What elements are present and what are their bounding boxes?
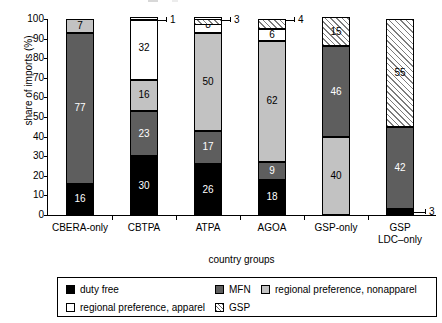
legend-row-2: regional preference, apparel GSP <box>58 298 436 316</box>
segment-value-cbtpa-duty-free: 30 <box>131 181 157 191</box>
segment-value-cbtpa-apparel: 32 <box>131 43 157 53</box>
segment-agoa-gsp[interactable] <box>258 19 286 29</box>
y-tick-label-70: 70 <box>0 74 44 82</box>
callout-label-cbtpa-gsp: 1 <box>170 15 176 25</box>
legend-swatch-regional-nonapparel-icon <box>261 285 270 294</box>
legend-label-regional-apparel: regional preference, apparel <box>80 302 205 313</box>
segment-gspldc-duty-free[interactable] <box>386 209 414 215</box>
segment-agoa-duty-free[interactable]: 18 <box>258 180 286 215</box>
segment-value-cbera-nonapparel: 7 <box>67 21 93 31</box>
segment-value-gspldc-mfn: 42 <box>387 163 413 173</box>
x-axis-line <box>47 215 436 216</box>
legend-row-1: duty free MFN regional preference, nonap… <box>58 280 436 298</box>
legend-swatch-regional-apparel-icon <box>66 303 75 312</box>
bar-cbera-only[interactable]: 16 77 7 <box>66 19 94 215</box>
callout-label-atpa-gsp: 3 <box>234 15 240 25</box>
legend-label-gsp: GSP <box>229 302 250 313</box>
x-tick-label-gsp-ldc-only: GSP LDC–only <box>357 222 442 246</box>
bar-agoa[interactable]: 18 9 62 6 <box>258 19 286 215</box>
stacked-bar-chart: share of imports (%) 0 10 20 30 40 50 60… <box>0 0 442 323</box>
segment-value-agoa-nonapparel: 62 <box>259 96 285 106</box>
y-tick-label-30: 30 <box>0 152 44 160</box>
y-tick-label-20: 20 <box>0 172 44 180</box>
segment-cbtpa-mfn[interactable]: 23 <box>130 111 158 156</box>
y-tick-label-80: 80 <box>0 54 44 62</box>
legend-item-regional-nonapparel[interactable]: regional preference, nonapparel <box>261 280 417 298</box>
y-tick-label-90: 90 <box>0 35 44 43</box>
segment-agoa-apparel[interactable]: 6 <box>258 29 286 41</box>
legend-item-gsp[interactable]: GSP <box>215 298 250 316</box>
x-tick-mark-1 <box>112 216 113 220</box>
bar-atpa[interactable]: 26 17 50 8 <box>194 19 222 215</box>
y-tick-label-40: 40 <box>0 133 44 141</box>
segment-gsponly-gsp[interactable]: 15 <box>322 17 350 46</box>
bars-container: 16 77 7 30 23 16 32 <box>47 19 436 215</box>
segment-value-atpa-duty-free: 26 <box>195 185 221 195</box>
segment-gspldc-mfn[interactable]: 42 <box>386 127 414 209</box>
x-tick-mark-4 <box>304 216 305 220</box>
callout-tick-gspldc-duty-free <box>425 209 426 214</box>
y-tick-mark-0 <box>44 215 48 216</box>
segment-atpa-gsp[interactable] <box>194 19 222 25</box>
legend-item-mfn[interactable]: MFN <box>215 280 251 298</box>
bar-gsp-only[interactable]: 40 46 15 <box>322 19 350 215</box>
legend-swatch-duty-free-icon <box>66 285 75 294</box>
legend-swatch-gsp-icon <box>215 303 224 312</box>
segment-value-atpa-nonapparel: 50 <box>195 77 221 87</box>
legend-item-duty-free[interactable]: duty free <box>66 280 119 298</box>
segment-value-atpa-mfn: 17 <box>195 142 221 152</box>
x-tick-mark-5 <box>368 216 369 220</box>
segment-agoa-mfn[interactable]: 9 <box>258 162 286 180</box>
segment-value-gsponly-nonapparel: 40 <box>323 171 349 181</box>
y-tick-label-60: 60 <box>0 93 44 101</box>
segment-cbtpa-duty-free[interactable]: 30 <box>130 156 158 215</box>
y-tick-label-0: 0 <box>0 211 44 219</box>
legend: duty free MFN regional preference, nonap… <box>57 277 437 317</box>
segment-value-cbera-duty-free: 16 <box>67 194 93 204</box>
y-tick-label-10: 10 <box>0 191 44 199</box>
x-tick-mark-2 <box>176 216 177 220</box>
segment-cbtpa-apparel[interactable]: 32 <box>130 17 158 80</box>
segment-value-gsponly-mfn: 46 <box>323 87 349 97</box>
legend-label-mfn: MFN <box>229 284 251 295</box>
x-tick-mark-3 <box>240 216 241 220</box>
segment-value-gsponly-gsp: 15 <box>323 27 349 37</box>
segment-value-cbtpa-nonapparel: 16 <box>131 90 157 100</box>
segment-value-gspldc-gsp: 55 <box>387 68 413 78</box>
segment-cbtpa-gsp[interactable] <box>130 19 158 21</box>
x-axis-title: country groups <box>47 254 436 265</box>
segment-gspldc-gsp[interactable]: 55 <box>386 19 414 127</box>
segment-value-agoa-duty-free: 18 <box>259 192 285 202</box>
segment-gsponly-nonapparel[interactable]: 40 <box>322 137 350 215</box>
y-tick-label-100: 100 <box>0 15 44 23</box>
segment-atpa-duty-free[interactable]: 26 <box>194 164 222 215</box>
segment-value-agoa-apparel: 6 <box>259 30 285 40</box>
segment-value-agoa-mfn: 9 <box>259 166 285 176</box>
legend-swatch-mfn-icon <box>215 285 224 294</box>
callout-label-agoa-gsp: 4 <box>298 15 304 25</box>
segment-cbera-nonapparel[interactable]: 7 <box>66 19 94 33</box>
y-tick-label-50: 50 <box>0 113 44 121</box>
segment-cbera-duty-free[interactable]: 16 <box>66 184 94 215</box>
segment-gsponly-mfn[interactable]: 46 <box>322 46 350 136</box>
legend-item-regional-apparel[interactable]: regional preference, apparel <box>66 298 205 316</box>
callout-tick-atpa-gsp <box>230 17 231 22</box>
bar-gsp-ldc-only[interactable]: 42 55 <box>386 19 414 215</box>
segment-atpa-mfn[interactable]: 17 <box>194 131 222 164</box>
segment-value-cbera-mfn: 77 <box>67 103 93 113</box>
segment-cbtpa-nonapparel[interactable]: 16 <box>130 80 158 111</box>
legend-label-duty-free: duty free <box>80 284 119 295</box>
segment-value-cbtpa-mfn: 23 <box>131 129 157 139</box>
callout-tick-cbtpa-gsp <box>166 17 167 22</box>
segment-atpa-nonapparel[interactable]: 50 <box>194 33 222 131</box>
legend-label-regional-nonapparel: regional preference, nonapparel <box>275 284 417 295</box>
cropped-title-remnant <box>0 0 442 3</box>
x-tick-label-gsp-ldc-only-line2: LDC–only <box>357 234 442 246</box>
segment-cbera-mfn[interactable]: 77 <box>66 33 94 184</box>
segment-agoa-nonapparel[interactable]: 62 <box>258 41 286 163</box>
x-tick-label-gsp-ldc-only-line1: GSP <box>357 222 442 234</box>
callout-tick-agoa-gsp <box>294 17 295 22</box>
bar-cbtpa[interactable]: 30 23 16 32 <box>130 19 158 215</box>
callout-label-gspldc-duty-free: 3 <box>429 207 435 217</box>
